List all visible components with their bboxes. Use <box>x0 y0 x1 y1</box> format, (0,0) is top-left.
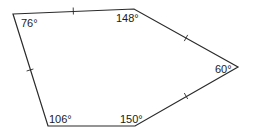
pentagon-outline <box>13 9 238 126</box>
angle-label-e: 106° <box>49 113 72 125</box>
angle-label-d: 150° <box>120 113 143 125</box>
angle-label-b: 148° <box>116 12 139 24</box>
pentagon-diagram: 76° 148° 60° 150° 106° <box>0 0 254 135</box>
angle-label-c: 60° <box>215 63 232 75</box>
angle-label-a: 76° <box>21 17 38 29</box>
